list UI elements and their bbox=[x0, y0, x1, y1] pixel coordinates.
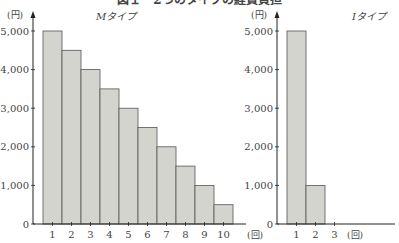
bar bbox=[119, 108, 138, 224]
y-tick-label: 1,000 bbox=[244, 180, 273, 191]
chart-title: Mタイプ bbox=[95, 11, 138, 22]
y-tick-label: 4,000 bbox=[244, 64, 273, 75]
x-tick-label: 6 bbox=[144, 229, 150, 240]
bar bbox=[176, 166, 195, 224]
bar bbox=[306, 185, 325, 224]
x-tick-label: 8 bbox=[182, 229, 188, 240]
bar-charts: 01,0002,0003,0004,0005,00012345678910(円)… bbox=[0, 0, 399, 243]
x-tick-label: 4 bbox=[106, 229, 112, 240]
y-axis-arrow-icon bbox=[275, 11, 280, 18]
chart-m-type: 01,0002,0003,0004,0005,00012345678910(円)… bbox=[0, 10, 263, 240]
y-tick-label: 5,000 bbox=[244, 26, 273, 37]
x-tick-label: 5 bbox=[125, 229, 131, 240]
chart-i-type: 01,0002,0003,0004,0005,000123(円)(回)Iタイプ bbox=[244, 10, 395, 240]
x-axis-unit: (回) bbox=[347, 230, 363, 240]
y-tick-label: 0 bbox=[267, 219, 273, 230]
bar bbox=[214, 205, 233, 224]
y-axis-arrow-icon bbox=[31, 11, 36, 18]
bar bbox=[157, 147, 176, 224]
bar bbox=[81, 70, 100, 224]
y-tick-label: 1,000 bbox=[0, 180, 29, 191]
x-tick-label: 2 bbox=[312, 229, 318, 240]
y-tick-label: 2,000 bbox=[0, 141, 29, 152]
x-tick-label: 1 bbox=[293, 229, 299, 240]
y-tick-label: 5,000 bbox=[0, 26, 29, 37]
bar bbox=[138, 128, 157, 225]
x-tick-label: 3 bbox=[331, 229, 337, 240]
bar bbox=[43, 31, 62, 224]
y-axis-unit: (円) bbox=[7, 10, 23, 20]
y-tick-label: 3,000 bbox=[0, 103, 29, 114]
y-tick-label: 0 bbox=[23, 219, 29, 230]
chart-title: Iタイプ bbox=[351, 11, 388, 22]
bar bbox=[62, 50, 81, 224]
x-tick-label: 9 bbox=[201, 229, 207, 240]
x-tick-label: 3 bbox=[87, 229, 93, 240]
y-tick-label: 2,000 bbox=[244, 141, 273, 152]
x-tick-label: 10 bbox=[217, 229, 230, 240]
y-tick-label: 3,000 bbox=[244, 103, 273, 114]
y-tick-label: 4,000 bbox=[0, 64, 29, 75]
y-axis-unit: (円) bbox=[251, 10, 267, 20]
x-tick-label: 7 bbox=[163, 229, 169, 240]
bar bbox=[195, 185, 214, 224]
x-axis-unit: (回) bbox=[247, 230, 263, 240]
bar bbox=[100, 89, 119, 224]
bar bbox=[287, 31, 306, 224]
x-tick-label: 1 bbox=[49, 229, 55, 240]
x-tick-label: 2 bbox=[68, 229, 74, 240]
